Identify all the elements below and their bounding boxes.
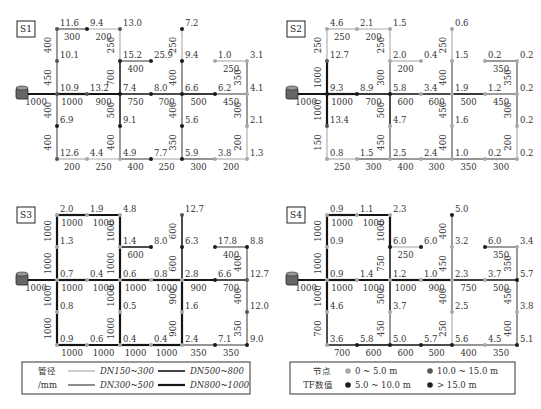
node-value: 2.5: [393, 148, 407, 158]
node-e3: [118, 343, 122, 347]
node-c4: [149, 92, 153, 96]
pipe-label: 300: [503, 102, 513, 118]
legend-node-swatch: [427, 382, 433, 388]
node-e1: [325, 343, 329, 347]
panel-s4: 1000100010002503501000100010009007505007…: [286, 204, 534, 358]
node-c3: [118, 278, 122, 282]
pipe-label: 450: [438, 102, 448, 118]
node-d5: [450, 310, 454, 314]
node-d7: [515, 310, 519, 314]
node-d1: [55, 310, 59, 314]
node-a5: [180, 213, 184, 217]
node-value: 10.9: [60, 83, 79, 93]
pipe-label: 500: [190, 97, 206, 107]
pipe-label: 700: [313, 320, 323, 336]
pipe-label: 1000: [43, 285, 53, 307]
node-value: 5.1: [520, 334, 534, 344]
pipe-label: 250: [106, 37, 116, 53]
pipe-label: 500: [460, 97, 476, 107]
node-c6: [213, 278, 217, 282]
node-d1: [325, 124, 329, 128]
node-d5: [180, 124, 184, 128]
node-d5: [180, 310, 184, 314]
node-c5: [450, 92, 454, 96]
node-value: 4.7: [393, 115, 407, 125]
pipe-label: 350: [223, 348, 239, 358]
node-a5: [450, 27, 454, 31]
pipe-label: 1000: [93, 348, 115, 358]
node-b4: [149, 59, 153, 63]
pipe-label: 1000: [395, 283, 417, 293]
node-value: 6.6: [218, 269, 232, 279]
node-value: 1.1: [360, 204, 374, 214]
node-value: 0.2: [520, 115, 534, 125]
pipe-label: 1000: [61, 218, 83, 228]
pipe-label: 400: [43, 37, 53, 53]
node-value: 1.4: [360, 269, 374, 279]
node-d5: [450, 124, 454, 128]
node-a1: [325, 213, 329, 217]
pipe-label: 250: [397, 250, 413, 260]
legend-node-swatch: [345, 382, 351, 388]
node-value: 9.4: [185, 50, 199, 60]
node-c4: [419, 278, 423, 282]
legend-node-item: 10.0 ~ 15.0 m: [437, 366, 498, 376]
node-c7: [515, 278, 519, 282]
node-e3: [118, 157, 122, 161]
node-e2: [85, 157, 89, 161]
node-e7: [515, 157, 519, 161]
node-b4: [419, 245, 423, 249]
node-value: 9.1: [123, 115, 137, 125]
node-value: 1.2: [488, 83, 502, 93]
node-a1: [325, 27, 329, 31]
node-value: 12.7: [185, 204, 204, 214]
pipe-label: 1000: [125, 348, 147, 358]
pipe-label: 400: [168, 69, 178, 85]
node-e1: [325, 157, 329, 161]
reservoir-top-icon: [286, 86, 298, 90]
node-value: 4.5: [488, 334, 502, 344]
node-value: 6.9: [60, 115, 74, 125]
pipe-label: 400: [397, 162, 413, 172]
node-a5: [450, 213, 454, 217]
pipe-label: 1000: [61, 283, 83, 293]
node-b4: [419, 59, 423, 63]
pipe-label: 1000: [376, 220, 386, 242]
node-value: 0.6: [90, 334, 104, 344]
node-c7: [245, 278, 249, 282]
node-value: 13.4: [330, 115, 349, 125]
node-value: 0.2: [488, 50, 502, 60]
panel-tag: S4: [290, 210, 302, 220]
node-a3: [388, 27, 392, 31]
node-value: 0.8: [330, 148, 344, 158]
pipe-label: 900: [168, 288, 178, 304]
legend-node-item: 5.0 ~ 10.0 m: [355, 380, 411, 390]
node-b5: [450, 59, 454, 63]
pipe-label: 350: [190, 348, 206, 358]
node-e6: [483, 343, 487, 347]
node-d3: [118, 124, 122, 128]
node-value: 7.4: [123, 83, 137, 93]
pipe-label: 400: [233, 288, 243, 304]
pipe-label: 350: [460, 162, 476, 172]
pipe-label: 250: [376, 37, 386, 53]
pipe-label: 300: [64, 32, 80, 42]
node-b6: [213, 59, 217, 63]
node-d3: [388, 310, 392, 314]
legend-pipe-diameter: 管径/mmDN150~300DN300~500DN500~800DN800~10…: [22, 362, 250, 394]
node-value: 25.9: [154, 50, 173, 60]
node-value: 5.6: [455, 334, 469, 344]
node-b3: [118, 245, 122, 249]
node-b7: [245, 245, 249, 249]
node-value: 4.6: [330, 18, 344, 28]
node-b1: [325, 245, 329, 249]
node-b6: [213, 245, 217, 249]
pipe-label: 400: [438, 223, 448, 239]
node-a5: [180, 27, 184, 31]
panel-s3: 1000100010006004001000100010001000900700…: [16, 204, 269, 358]
pipe-label: 200: [223, 162, 239, 172]
node-value: 9.4: [90, 18, 104, 28]
pipe-label: 250: [334, 32, 350, 42]
legend-pipe-item: DN300~500: [99, 380, 154, 390]
node-e7: [245, 157, 249, 161]
